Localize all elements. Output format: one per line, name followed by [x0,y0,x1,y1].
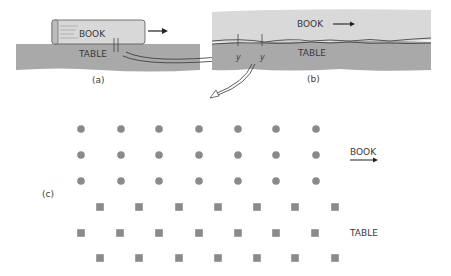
table-label-a: TABLE [78,49,107,59]
table-atom [175,254,183,262]
table-atom [272,229,280,237]
book-label-a: BOOK [79,29,106,39]
book-atom [312,177,320,185]
caption-c: (c) [42,189,54,199]
table-atom [253,203,261,211]
book-label-c: BOOK [350,147,377,157]
table-atom [77,229,85,237]
table-atoms [77,203,339,262]
y-label-2: y [259,53,265,62]
book-atom [117,177,125,185]
table-atom [331,254,339,262]
table-atom [96,203,104,211]
table-atom [175,203,183,211]
book-atom [234,177,242,185]
table-atom [291,254,299,262]
table-atom [135,254,143,262]
book-atom [155,125,163,133]
y-label-1: y [235,53,241,62]
panel-c: (c) BOOK TABLE [42,125,378,262]
book-label-b: BOOK [297,19,324,29]
table-atom [311,229,319,237]
table-atom [195,229,203,237]
book-atom [195,177,203,185]
table-atom [214,203,222,211]
book-a: BOOK [52,20,145,44]
book-atom [77,151,85,159]
book-atom [117,151,125,159]
book-atoms [77,125,320,185]
book-atom [234,151,242,159]
book-atom [234,125,242,133]
book-atom [77,125,85,133]
book-atom [272,125,280,133]
book-atom [195,151,203,159]
table-a [16,44,200,72]
table-atom [291,203,299,211]
caption-a: (a) [92,75,105,85]
table-atom [155,229,163,237]
book-atom [155,177,163,185]
table-atom [116,229,124,237]
panel-a: BOOK TABLE (a) [16,20,200,85]
friction-diagram: BOOK TABLE (a) BOOK TABLE y y (b) (c) BO… [0,0,451,276]
table-atom [214,254,222,262]
book-atom [312,125,320,133]
book-atom [77,177,85,185]
book-atom [312,151,320,159]
book-atom [117,125,125,133]
arrow-a-head [162,28,168,34]
table-label-b: TABLE [297,48,326,58]
book-atom [272,177,280,185]
table-atom [234,229,242,237]
book-atom [155,151,163,159]
table-atom [135,203,143,211]
book-atom [272,151,280,159]
panel-b: BOOK TABLE y y (b) [210,9,431,98]
table-atom [96,254,104,262]
table-label-c: TABLE [349,228,378,238]
arrow-c-head [373,158,378,163]
book-atom [195,125,203,133]
caption-b: (b) [307,74,320,84]
zoom-arrow-head [210,90,219,98]
table-atom [253,254,261,262]
table-atom [331,203,339,211]
